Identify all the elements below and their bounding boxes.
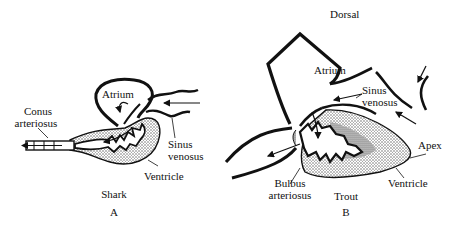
shark-conus-label-line1: Conus xyxy=(14,105,62,117)
trout-atrium-label: Atrium xyxy=(314,64,346,76)
trout-heart xyxy=(226,34,428,184)
shark-sinus-label-line1: Sinus xyxy=(168,138,192,150)
fish-heart-diagram: Atrium Conus arteriosus Sinus venosus Ve… xyxy=(0,0,459,228)
heart-illustrations xyxy=(0,0,459,228)
panel-b-letter: B xyxy=(336,206,356,218)
trout-bulbus-label-line1: Bulbus xyxy=(262,177,318,189)
trout-sinus-label-line1: Sinus xyxy=(362,84,386,96)
trout-apex-label: Apex xyxy=(418,139,442,151)
trout-ventricle-label: Ventricle xyxy=(388,177,428,189)
panel-a-letter: A xyxy=(104,206,124,218)
shark-caption: Shark xyxy=(94,188,134,200)
shark-conus-label-line2: arteriosus xyxy=(4,117,68,129)
trout-dorsal-label: Dorsal xyxy=(330,8,359,20)
trout-sinus-label-line2: venosus xyxy=(362,96,397,108)
shark-sinus-label-line2: venosus xyxy=(168,150,203,162)
trout-caption: Trout xyxy=(326,190,366,202)
shark-ventricle-label: Ventricle xyxy=(144,170,184,182)
shark-atrium-label: Atrium xyxy=(102,88,134,100)
trout-bulbus-label-line2: arteriosus xyxy=(260,189,320,201)
